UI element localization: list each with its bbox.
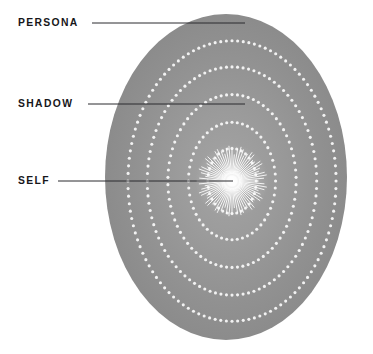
psyche-diagram-graphic [0,0,373,354]
diagram-canvas: PERSONA SHADOW SELF [0,0,373,354]
label-shadow: SHADOW [18,98,73,109]
label-self: SELF [18,175,50,186]
label-persona: PERSONA [18,17,79,28]
